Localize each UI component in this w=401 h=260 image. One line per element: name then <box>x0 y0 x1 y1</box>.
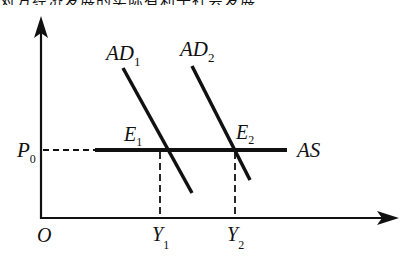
ad-as-diagram: AD1 AD2 AS E1 E2 P0 O Y1 Y2 <box>0 0 401 260</box>
as-label: AS <box>295 138 321 162</box>
ad1-label: AD1 <box>104 41 141 69</box>
e2-label: E2 <box>235 121 254 147</box>
e1-label: E1 <box>123 123 142 149</box>
ad2-label: AD2 <box>178 37 215 65</box>
origin-label: O <box>37 224 51 246</box>
y1-label: Y1 <box>152 223 169 252</box>
p0-label: P0 <box>16 138 36 166</box>
y2-label: Y2 <box>227 223 244 252</box>
